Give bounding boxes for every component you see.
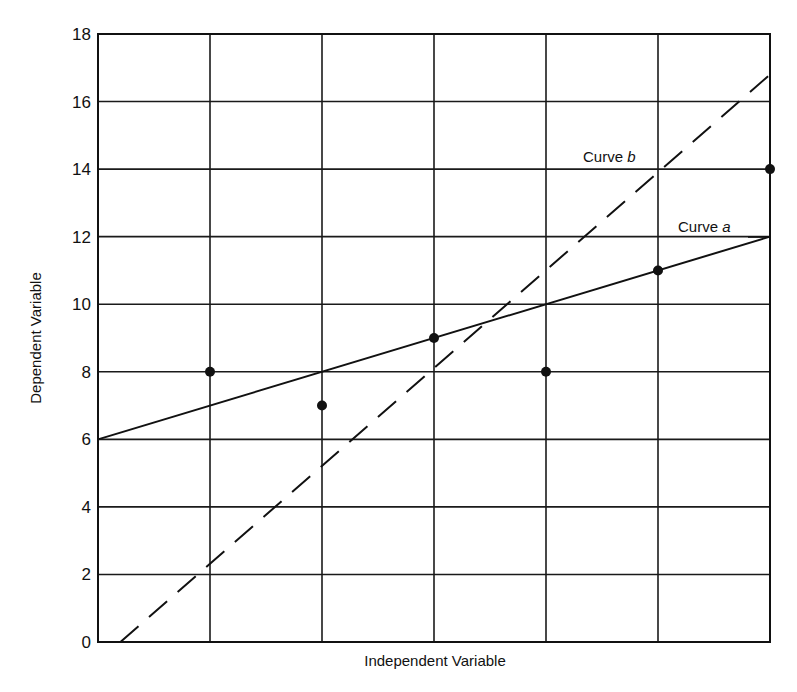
y-tick-labels: 024681012141618 xyxy=(72,25,91,652)
data-point xyxy=(541,367,551,377)
y-tick-label: 8 xyxy=(82,363,91,382)
y-tick-label: 12 xyxy=(72,228,91,247)
y-tick-label: 6 xyxy=(82,430,91,449)
y-tick-label: 2 xyxy=(82,565,91,584)
data-points xyxy=(205,164,775,410)
x-axis-label: Independent Variable xyxy=(364,652,506,669)
y-axis-label: Dependent Variable xyxy=(27,272,44,403)
data-point xyxy=(429,333,439,343)
curve-a-label: Curve a xyxy=(678,218,731,235)
y-tick-label: 0 xyxy=(82,633,91,652)
y-tick-label: 14 xyxy=(72,160,91,179)
y-tick-label: 18 xyxy=(72,25,91,44)
curve-b-line xyxy=(120,75,770,642)
data-point xyxy=(653,265,663,275)
data-point xyxy=(205,367,215,377)
data-point xyxy=(317,401,327,411)
chart: 024681012141618 Independent Variable Dep… xyxy=(0,0,797,692)
y-tick-label: 10 xyxy=(72,295,91,314)
y-tick-label: 16 xyxy=(72,93,91,112)
y-tick-label: 4 xyxy=(82,498,91,517)
curve-b-label: Curve b xyxy=(583,148,636,165)
